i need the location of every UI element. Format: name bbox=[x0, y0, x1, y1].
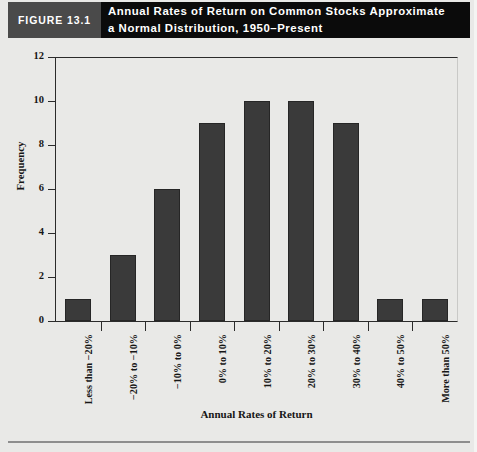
x-axis-tick-label: −20% to −10% bbox=[128, 334, 139, 400]
x-axis-tick bbox=[323, 322, 324, 331]
x-axis-tick-label: More than 50% bbox=[440, 334, 451, 403]
bar-slot bbox=[413, 57, 458, 321]
x-axis-tick bbox=[101, 322, 102, 331]
bar bbox=[333, 123, 359, 321]
figure-header: FIGURE 13.1 Annual Rates of Return on Co… bbox=[0, 0, 477, 40]
y-axis-title: Frequency bbox=[14, 126, 26, 206]
y-axis-tick bbox=[48, 189, 56, 190]
x-axis-tick bbox=[145, 322, 146, 331]
figure-number-label: FIGURE 13.1 bbox=[8, 2, 101, 38]
x-axis-tick-label: 40% to 50% bbox=[395, 334, 406, 388]
y-axis-tick-label: 12 bbox=[0, 50, 44, 61]
bar-slot bbox=[279, 57, 324, 321]
figure-title: Annual Rates of Return on Common Stocks … bbox=[108, 3, 466, 37]
y-axis-tick-label: 4 bbox=[0, 226, 44, 237]
footer-divider bbox=[8, 441, 470, 443]
x-axis-tick bbox=[368, 322, 369, 331]
y-axis-tick-label: 2 bbox=[0, 270, 44, 281]
bar-slot bbox=[56, 57, 101, 321]
y-axis-tick bbox=[48, 101, 56, 102]
y-axis-tick-label: 0 bbox=[0, 314, 44, 325]
bar bbox=[244, 101, 270, 321]
bar-slot bbox=[145, 57, 190, 321]
y-axis-tick bbox=[48, 145, 56, 146]
y-axis-tick bbox=[48, 57, 56, 58]
bar-series bbox=[56, 57, 457, 321]
x-axis-tick-label: 10% to 20% bbox=[262, 334, 273, 388]
bar bbox=[377, 299, 403, 321]
x-axis-tick bbox=[190, 322, 191, 331]
x-axis-tick bbox=[234, 322, 235, 331]
bar bbox=[422, 299, 448, 321]
x-axis-tick-label: 30% to 40% bbox=[351, 334, 362, 388]
figure-title-line-1: Annual Rates of Return on Common Stocks … bbox=[108, 3, 466, 20]
figure-title-line-2: a Normal Distribution, 1950–Present bbox=[108, 20, 466, 37]
bar-slot bbox=[234, 57, 279, 321]
y-axis-tick bbox=[48, 233, 56, 234]
x-axis-tick-label: Less than −20% bbox=[83, 334, 94, 404]
bar bbox=[288, 101, 314, 321]
x-axis-tick bbox=[279, 322, 280, 331]
x-axis-tick bbox=[412, 322, 413, 331]
y-axis-tick bbox=[48, 321, 56, 322]
bar bbox=[199, 123, 225, 321]
bar bbox=[154, 189, 180, 321]
y-axis-tick-label: 10 bbox=[0, 94, 44, 105]
bar bbox=[110, 255, 136, 321]
x-axis-tick-label: 20% to 30% bbox=[306, 334, 317, 388]
bar-chart: 024681012 Less than −20%−20% to −10%−10%… bbox=[0, 40, 477, 436]
bar-slot bbox=[368, 57, 413, 321]
bar-slot bbox=[190, 57, 235, 321]
bar-slot bbox=[323, 57, 368, 321]
x-axis-tick-label: −10% to 0% bbox=[172, 334, 183, 389]
bar-slot bbox=[101, 57, 146, 321]
x-axis-title: Annual Rates of Return bbox=[55, 408, 458, 420]
x-axis-tick-label: 0% to 10% bbox=[217, 334, 228, 383]
y-axis-tick bbox=[48, 277, 56, 278]
bar bbox=[65, 299, 91, 321]
